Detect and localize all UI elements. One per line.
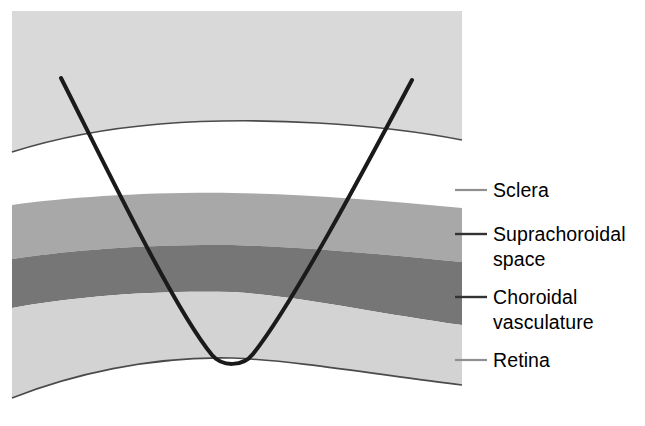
label-suprachoroidal-space: Suprachoroidal space: [493, 222, 626, 272]
figure-canvas: Sclera Suprachoroidal space Choroidal va…: [0, 0, 645, 426]
label-retina: Retina: [493, 348, 550, 373]
label-choroidal-vasculature: Choroidal vasculature: [493, 285, 594, 335]
label-sclera: Sclera: [493, 178, 549, 203]
